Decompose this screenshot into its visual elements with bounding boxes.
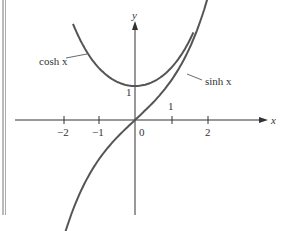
sinh-label: sinh x (205, 76, 232, 87)
sinh-label-text: sinh x (205, 75, 232, 87)
cosh-label: cosh x (39, 56, 67, 67)
x-one-label: 1 (168, 101, 174, 112)
x-axis-label: x (271, 115, 276, 126)
tick-label-0: 0 (139, 127, 145, 138)
cosh-leader-line (66, 54, 87, 58)
cosh-curve (73, 24, 193, 86)
tick-label-2: 2 (205, 127, 211, 138)
plot-area (0, 0, 287, 231)
cosh-label-text: cosh x (39, 55, 67, 67)
y-axis-label: y (132, 10, 137, 21)
tick-label-m1: −1 (92, 127, 104, 138)
sinh-curve (58, 0, 208, 231)
sinh-leader-line (187, 74, 202, 80)
x-axis-arrow-icon (259, 117, 268, 123)
y-axis-arrow-icon (132, 21, 138, 30)
y-tick-label-1: 1 (126, 87, 132, 98)
tick-label-m2: −2 (57, 127, 69, 138)
